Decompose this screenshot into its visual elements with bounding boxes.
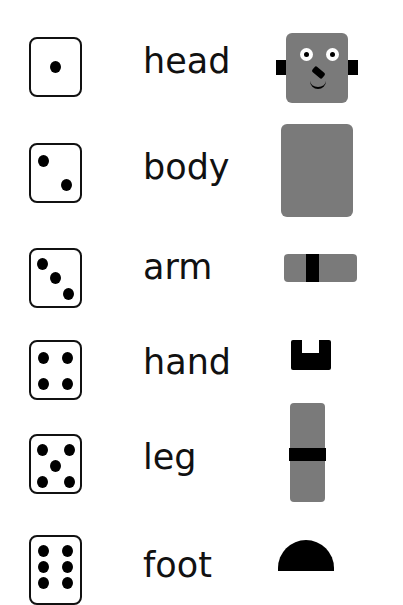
pip [38,577,49,589]
pip [62,545,73,557]
pip [64,476,75,488]
pip [62,352,73,364]
pip [61,179,72,191]
dice-six [29,535,82,605]
pip [38,352,49,364]
pip [64,444,75,456]
word-arm: arm [143,250,212,285]
pip [50,61,61,73]
robot-foot-icon [278,540,334,571]
pip [62,378,73,390]
robot-leg-icon [289,403,326,502]
pip [37,444,48,456]
pip [38,378,49,390]
pip [50,272,61,284]
pip [38,155,49,167]
dice-three [29,248,82,308]
pip [50,460,61,472]
dice-four [29,340,82,400]
pip [38,561,49,573]
robot-hand-icon [291,340,331,370]
robot-arm-icon [284,254,357,282]
dice-five [29,434,82,494]
pip [62,577,73,589]
dice-two [29,143,82,203]
word-foot: foot [143,548,212,583]
word-hand: hand [143,345,231,380]
robot-head-icon [276,33,358,103]
pip [63,288,74,300]
word-leg: leg [143,440,196,475]
pip [37,476,48,488]
word-head: head [143,44,230,79]
word-body: body [143,150,230,185]
robot-body-icon [281,124,353,217]
pip [37,258,48,270]
dice-one [29,37,82,97]
pip [38,545,49,557]
pip [62,561,73,573]
